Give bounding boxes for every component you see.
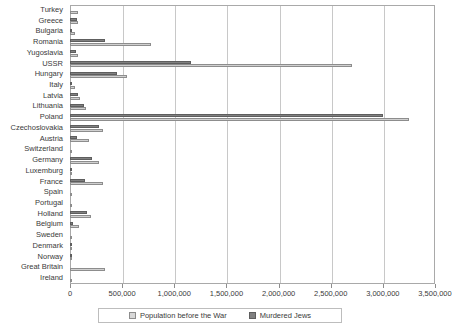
bar-row	[70, 263, 435, 274]
bar-row	[70, 16, 435, 27]
bar-population-before-war	[70, 21, 78, 24]
bar-row	[70, 220, 435, 231]
legend-label-population: Population before the War	[140, 311, 227, 320]
y-axis-label: Greece	[38, 17, 63, 25]
bar-row	[70, 187, 435, 198]
bar-row	[70, 48, 435, 59]
y-axis-label: Latvia	[43, 92, 63, 100]
bar-population-before-war	[70, 64, 352, 67]
x-axis-tick-label: 1,000,000	[158, 289, 191, 298]
bar-row	[70, 37, 435, 48]
y-axis-label: Switzerland	[24, 145, 63, 153]
bar-row	[70, 91, 435, 102]
bar-population-before-war	[70, 129, 103, 132]
x-axis-tick-label: 2,000,000	[262, 289, 295, 298]
y-axis-label: Ireland	[40, 274, 63, 282]
y-axis-label: Hungary	[35, 70, 63, 78]
y-axis-label: Great Britain	[21, 263, 63, 271]
bar-population-before-war	[70, 161, 99, 164]
bar-population-before-war	[70, 32, 75, 35]
x-axis-tick	[70, 284, 71, 288]
y-axis-label: Norway	[38, 253, 63, 261]
bar-population-before-war	[70, 215, 91, 218]
bar-row	[70, 102, 435, 113]
bar-population-before-war	[70, 75, 127, 78]
bar-row	[70, 155, 435, 166]
x-axis-tick-label: 2,500,000	[314, 289, 347, 298]
bar-population-before-war	[70, 247, 72, 250]
y-axis-label: Bulgaria	[35, 27, 63, 35]
bar-population-before-war	[70, 225, 79, 228]
x-axis-tick-label: 1,500,000	[210, 289, 243, 298]
bar-row	[70, 69, 435, 80]
x-axis-tick	[122, 284, 123, 288]
bar-row	[70, 80, 435, 91]
bar-population-before-war	[70, 236, 72, 239]
bar-row	[70, 177, 435, 188]
y-axis-label: Romania	[33, 38, 63, 46]
legend-swatch-light-icon	[129, 312, 136, 319]
legend-item-murdered: Murdered Jews	[249, 311, 311, 320]
bar-row	[70, 59, 435, 70]
y-axis-label: Czechoslovakia	[10, 124, 63, 132]
bar-population-before-war	[70, 257, 72, 260]
legend-label-murdered: Murdered Jews	[260, 311, 311, 320]
y-axis-label: Denmark	[33, 242, 63, 250]
y-axis-label: Poland	[40, 113, 63, 121]
bar-population-before-war	[70, 43, 151, 46]
x-axis-tick-label: 500,000	[109, 289, 136, 298]
y-axis-label: USSR	[42, 60, 63, 68]
bar-population-before-war	[70, 150, 72, 153]
bar-population-before-war	[70, 11, 78, 14]
y-axis-label: Belgium	[36, 220, 63, 228]
bar-population-before-war	[70, 97, 80, 100]
bar-row	[70, 252, 435, 263]
y-axis-label: Italy	[49, 81, 63, 89]
x-axis-tick-label: 3,000,000	[366, 289, 399, 298]
x-axis-tick	[174, 284, 175, 288]
y-axis-label: Turkey	[40, 6, 63, 14]
bar-row	[70, 230, 435, 241]
x-axis-tick-label: 3,500,000	[418, 289, 451, 298]
bar-population-before-war	[70, 107, 86, 110]
bar-population-before-war	[70, 268, 105, 271]
bar-chart: TurkeyGreeceBulgariaRomaniaYugoslaviaUSS…	[0, 0, 456, 329]
bar-row	[70, 198, 435, 209]
bar-row	[70, 112, 435, 123]
y-axis-label: Lithuania	[33, 102, 63, 110]
y-axis-label: Austria	[40, 135, 63, 143]
y-axis-label: Portugal	[35, 199, 63, 207]
bar-population-before-war	[70, 54, 78, 57]
bar-row	[70, 166, 435, 177]
bar-population-before-war	[70, 204, 72, 207]
bar-population-before-war	[70, 172, 72, 175]
bar-population-before-war	[70, 279, 72, 282]
bar-row	[70, 26, 435, 37]
x-axis-tick-label: 0	[68, 289, 72, 298]
bar-row	[70, 273, 435, 284]
bar-row	[70, 145, 435, 156]
y-axis-labels: TurkeyGreeceBulgariaRomaniaYugoslaviaUSS…	[0, 5, 67, 284]
y-axis-label: Luxemburg	[25, 167, 63, 175]
x-axis-tick	[226, 284, 227, 288]
x-axis-tick	[279, 284, 280, 288]
bar-rows	[70, 5, 435, 284]
bar-row	[70, 134, 435, 145]
y-axis-label: Germany	[32, 156, 63, 164]
bar-population-before-war	[70, 193, 72, 196]
x-axis-labels: 0500,0001,000,0001,500,0002,000,0002,500…	[0, 289, 456, 301]
bar-row	[70, 123, 435, 134]
y-axis-label: France	[40, 178, 63, 186]
bar-row	[70, 241, 435, 252]
y-axis-label: Spain	[44, 188, 63, 196]
chart-legend: Population before the War Murdered Jews	[98, 308, 342, 323]
bar-row	[70, 209, 435, 220]
x-axis-tick	[383, 284, 384, 288]
bar-population-before-war	[70, 86, 75, 89]
legend-item-population: Population before the War	[129, 311, 227, 320]
y-axis-label: Holland	[38, 210, 63, 218]
x-axis-tick	[435, 284, 436, 288]
bar-row	[70, 5, 435, 16]
x-axis-tick	[331, 284, 332, 288]
bar-population-before-war	[70, 139, 89, 142]
